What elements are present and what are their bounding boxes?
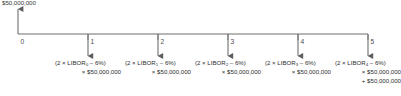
libor-period-subscript: 2	[226, 62, 228, 67]
cash-flow-notional-line: × $50,000,000	[335, 68, 401, 76]
cash-flow-notional-line: × $50,000,000	[55, 68, 121, 76]
libor-period-subscript: 0	[86, 62, 88, 67]
cash-flow-notional-line: × $50,000,000	[195, 68, 261, 76]
libor-period-subscript: 4	[366, 62, 368, 67]
cash-flow-rate-line: (2 × LIBOR1 – 6%)	[125, 59, 191, 68]
libor-period-subscript: 1	[156, 62, 158, 67]
tick-label-1: 1	[91, 38, 95, 45]
cash-flow-block-t4: (2 × LIBOR3 – 6%)× $50,000,000	[265, 59, 331, 77]
cash-flow-rate-line: (2 × LIBOR4 – 6%)	[335, 59, 401, 68]
cash-flow-principal-line: + $50,000,000	[335, 77, 401, 85]
cash-flow-notional-line: × $50,000,000	[265, 68, 331, 76]
libor-period-subscript: 3	[296, 62, 298, 67]
cash-flow-rate-line: (2 × LIBOR3 – 6%)	[265, 59, 331, 68]
cash-flow-notional-line: × $50,000,000	[125, 68, 191, 76]
tick-label-4: 4	[301, 38, 305, 45]
cash-flow-block-t3: (2 × LIBOR2 – 6%)× $50,000,000	[195, 59, 261, 77]
tick-label-2: 2	[161, 38, 165, 45]
cash-flow-rate-line: (2 × LIBOR2 – 6%)	[195, 59, 261, 68]
tick-label-5: 5	[371, 38, 375, 45]
tick-label-3: 3	[231, 38, 235, 45]
cash-flow-block-t5: (2 × LIBOR4 – 6%)× $50,000,000+ $50,000,…	[335, 59, 401, 85]
tick-label-0: 0	[21, 38, 25, 45]
cash-flow-block-t2: (2 × LIBOR1 – 6%)× $50,000,000	[125, 59, 191, 77]
cash-flow-block-t1: (2 × LIBOR0 – 6%)× $50,000,000	[55, 59, 121, 77]
cash-flow-rate-line: (2 × LIBOR0 – 6%)	[55, 59, 121, 68]
cash-flow-arrows	[18, 9, 368, 56]
